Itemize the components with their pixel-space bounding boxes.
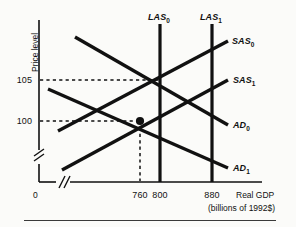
curve-label-las0: LAS0 [148,12,170,24]
y-axis-title: Price level [30,33,40,72]
figure-container: Price level 105 100 0 760 800 880 Real G… [0,0,296,227]
x-axis-title-line1: Real GDP [236,190,274,200]
curve-label-sas1-sub: 1 [252,80,256,87]
curve-label-ad0: AD0 [233,120,250,132]
curve-label-sas0-text: SAS [232,36,251,46]
figure-bottom-rule [24,220,276,221]
curve-label-ad0-text: AD [233,120,246,130]
curve-label-las0-text: LAS [148,12,166,22]
curve-label-sas1: SAS1 [233,75,256,87]
curve-label-las1-text: LAS [200,12,218,22]
curve-label-sas0-sub: 0 [251,41,255,48]
x-tick-880: 880 [197,190,227,200]
x-axis-title-line2: (billions of 1992$) [208,203,275,213]
curve-label-ad1-text: AD [233,163,246,173]
curve-label-sas1-text: SAS [233,75,252,85]
curve-sas0 [58,41,228,131]
x-axis-break-icon [59,176,70,188]
y-axis-break-icon [34,149,44,161]
curve-label-las0-sub: 0 [166,17,170,24]
x-tick-800: 800 [145,190,175,200]
y-tick-105: 105 [6,75,32,85]
equilibrium-dot-new [136,117,144,125]
curve-label-sas0: SAS0 [232,36,255,48]
curve-label-las1-sub: 1 [218,17,222,24]
curve-ad1 [48,89,228,168]
curve-label-ad0-sub: 0 [246,125,250,132]
origin-label: 0 [33,190,38,200]
y-tick-100: 100 [6,116,32,126]
curve-label-ad1: AD1 [233,163,250,175]
curve-label-ad1-sub: 1 [246,168,250,175]
curve-label-las1: LAS1 [200,12,222,24]
